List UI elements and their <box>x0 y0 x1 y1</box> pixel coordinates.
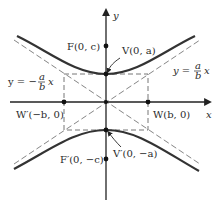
svg-text:y = −: y = − <box>7 76 37 87</box>
hyperbola-diagram: y x F(0, c) V(0, a) W′(−b, 0) W(b, 0) V′… <box>0 0 220 206</box>
svg-text:y =: y = <box>172 65 190 76</box>
focus-upper-dot <box>104 44 109 49</box>
vertex-lower-pointer <box>109 133 121 147</box>
vertex-upper-pointer <box>108 58 120 71</box>
vertex-upper-dot <box>104 72 109 77</box>
w-left-dot <box>62 100 67 105</box>
w-right-label: W(b, 0) <box>153 109 190 120</box>
asymptote-left-equation: y = − a b x <box>7 71 54 92</box>
vertex-upper-label: V(0, a) <box>121 45 156 56</box>
asymptote-right-equation: y = a b x <box>172 60 210 81</box>
svg-text:b: b <box>195 70 201 81</box>
y-axis-label: y <box>112 10 119 21</box>
w-right-dot <box>146 100 151 105</box>
svg-text:x: x <box>48 76 54 87</box>
w-left-label: W′(−b, 0) <box>16 109 64 120</box>
focus-lower-dot <box>104 157 109 162</box>
svg-text:b: b <box>39 81 45 92</box>
svg-text:x: x <box>204 65 210 76</box>
vertex-lower-dot <box>104 128 109 133</box>
x-axis-label: x <box>206 109 212 120</box>
focus-lower-label: F′(0, −c) <box>60 154 104 165</box>
vertex-lower-label: V′(0, −a) <box>112 148 157 159</box>
origin-dot <box>104 100 108 104</box>
focus-upper-label: F(0, c) <box>67 41 100 52</box>
